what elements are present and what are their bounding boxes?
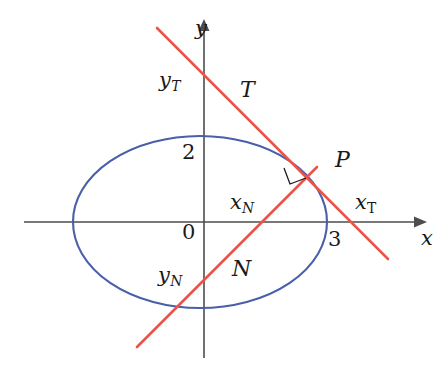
x-normal-intercept-label: xN [230, 192, 254, 213]
y-normal-intercept-base: y [158, 263, 170, 287]
y-normal-intercept-sub: N [170, 273, 182, 289]
x-normal-intercept-base: x [230, 190, 242, 214]
x-tangent-intercept-base: x [355, 190, 367, 214]
x-normal-intercept-sub: N [242, 200, 254, 216]
diagram-canvas [0, 0, 441, 370]
x-tangent-intercept-sub: T [367, 200, 376, 216]
normal-line-label: N [232, 258, 251, 280]
y-normal-intercept-label: yN [158, 265, 182, 286]
normal-line [137, 167, 317, 347]
point-p-label: P [335, 149, 350, 171]
y-tick-label-2: 2 [182, 142, 195, 163]
x-axis-label: x [421, 228, 433, 249]
y-tangent-intercept-base: y [159, 68, 171, 92]
origin-label: 0 [182, 222, 195, 243]
x-tangent-intercept-label: xT [355, 192, 376, 213]
geometry-figure: y x 2 0 3 T N P yT xT yN xN [0, 0, 441, 370]
y-tangent-intercept-label: yT [159, 70, 180, 91]
x-axis [24, 217, 427, 228]
x-tick-label-3: 3 [328, 229, 341, 250]
y-tangent-intercept-sub: T [171, 78, 180, 94]
y-axis-label: y [195, 18, 207, 39]
tangent-line-label: T [240, 79, 255, 101]
